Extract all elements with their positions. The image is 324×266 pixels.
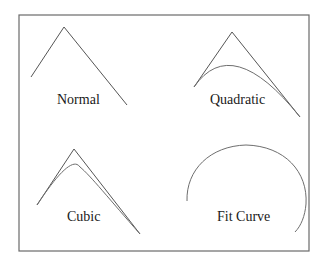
panel-cubic: Cubic [37,149,140,234]
panel-quadratic: Quadratic [194,32,300,117]
cubic-label: Cubic [67,209,100,224]
panel-fit-curve: Fit Curve [187,145,306,232]
quadratic-label: Quadratic [210,92,265,107]
curve-types-diagram: Normal Quadratic Cubic Fit Curve [0,0,324,266]
fit-curve-label: Fit Curve [217,209,270,224]
normal-label: Normal [57,92,100,107]
panel-normal: Normal [31,27,127,107]
